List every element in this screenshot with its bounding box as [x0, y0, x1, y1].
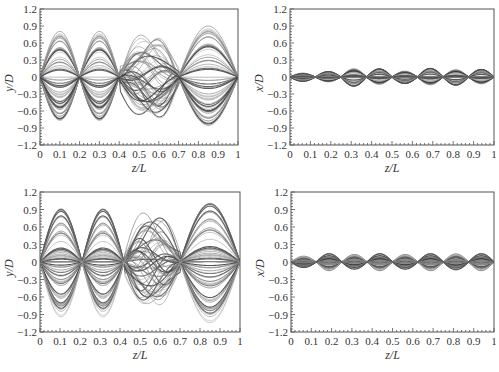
y-tick-label: 0: [283, 256, 289, 268]
y-tick-label: −0.6: [268, 291, 288, 303]
x-tick-label: 0.8: [447, 335, 461, 347]
x-tick-label: 0: [288, 335, 294, 347]
x-tick-label: 0.3: [345, 335, 359, 347]
y-tick-label: 1.2: [274, 186, 288, 198]
x-tick-label: 0.7: [426, 335, 440, 347]
curve-family: [291, 254, 494, 271]
x-tick-label: 0.9: [467, 335, 481, 347]
y-tick-label: −0.3: [268, 274, 288, 286]
x-axis-label: z/L: [384, 348, 400, 362]
x-tick-label: 1: [491, 335, 497, 347]
y-tick-label: 0.9: [274, 204, 288, 216]
x-tick-label: 0.6: [406, 335, 420, 347]
x-tick-label: 0.5: [386, 335, 400, 347]
x-tick-label: 0.4: [365, 335, 379, 347]
x-tick-label: 0.2: [325, 335, 339, 347]
y-tick-label: −1.2: [268, 326, 288, 338]
y-tick-label: 0.6: [274, 221, 288, 233]
y-tick-label: 0.3: [274, 239, 288, 251]
chart-bottom-right: 00.10.20.30.40.50.60.70.80.911.20.90.60.…: [0, 0, 499, 372]
y-axis-label: x/D: [253, 259, 267, 278]
y-tick-label: −0.9: [268, 309, 288, 321]
x-tick-label: 0.1: [304, 335, 318, 347]
